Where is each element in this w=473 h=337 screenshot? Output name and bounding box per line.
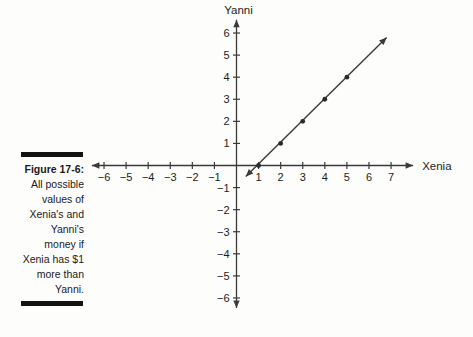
x-tick-label: 5 (344, 171, 350, 183)
caption-line: Xenia has $1 (8, 252, 84, 267)
solution-line (246, 37, 387, 176)
x-axis-title: Xenia (422, 160, 452, 172)
caption-line: more than (8, 267, 84, 282)
caption-line: Yanni. (8, 282, 84, 297)
caption-top-rule (21, 152, 83, 157)
y-tick-label: −6 (217, 292, 230, 304)
x-tick-label: −3 (164, 171, 177, 183)
y-tick-label: 6 (223, 27, 229, 39)
y-axis-down-arrow (233, 300, 239, 308)
x-tick-label: 2 (278, 171, 284, 183)
x-axis-left-arrow (92, 162, 100, 168)
y-tick-label: −3 (217, 226, 230, 238)
figure-caption: Figure 17-6: All possible values of Xeni… (8, 152, 84, 306)
data-point (300, 119, 305, 124)
x-tick-label: 4 (322, 171, 328, 183)
y-tick-label: −4 (217, 248, 230, 260)
caption-line: Xenia's and (8, 207, 84, 222)
x-tick-label: 7 (388, 171, 394, 183)
x-tick-label: 1 (256, 171, 262, 183)
x-tick-label: −2 (186, 171, 199, 183)
y-tick-label: 5 (223, 49, 229, 61)
y-tick-label: 1 (223, 137, 229, 149)
x-axis-right-arrow (406, 162, 414, 168)
y-tick-label: −1 (217, 182, 230, 194)
caption-line: Yanni's (8, 222, 84, 237)
x-tick-label: −5 (120, 171, 133, 183)
data-point (322, 97, 327, 102)
caption-line: All possible (8, 177, 84, 192)
data-point (345, 75, 350, 80)
y-tick-label: 3 (223, 93, 229, 105)
caption-line: values of (8, 192, 84, 207)
data-point (278, 141, 283, 146)
y-tick-label: 4 (223, 71, 229, 83)
caption-line: money if (8, 237, 84, 252)
figure-label: Figure 17-6: (8, 162, 84, 177)
x-tick-label: −6 (98, 171, 111, 183)
caption-bottom-rule (21, 301, 83, 306)
data-point (256, 163, 261, 168)
y-axis-up-arrow (233, 20, 239, 28)
y-tick-label: −5 (217, 270, 230, 282)
figure-container: −6−5−4−3−2−11234567−6−5−4−3−2−1123456Xen… (0, 0, 473, 337)
x-tick-label: −4 (142, 171, 155, 183)
y-tick-label: −2 (217, 204, 230, 216)
x-tick-label: 3 (300, 171, 306, 183)
y-axis-title: Yanni (224, 4, 253, 16)
y-tick-label: 2 (223, 115, 229, 127)
x-tick-label: 6 (366, 171, 372, 183)
